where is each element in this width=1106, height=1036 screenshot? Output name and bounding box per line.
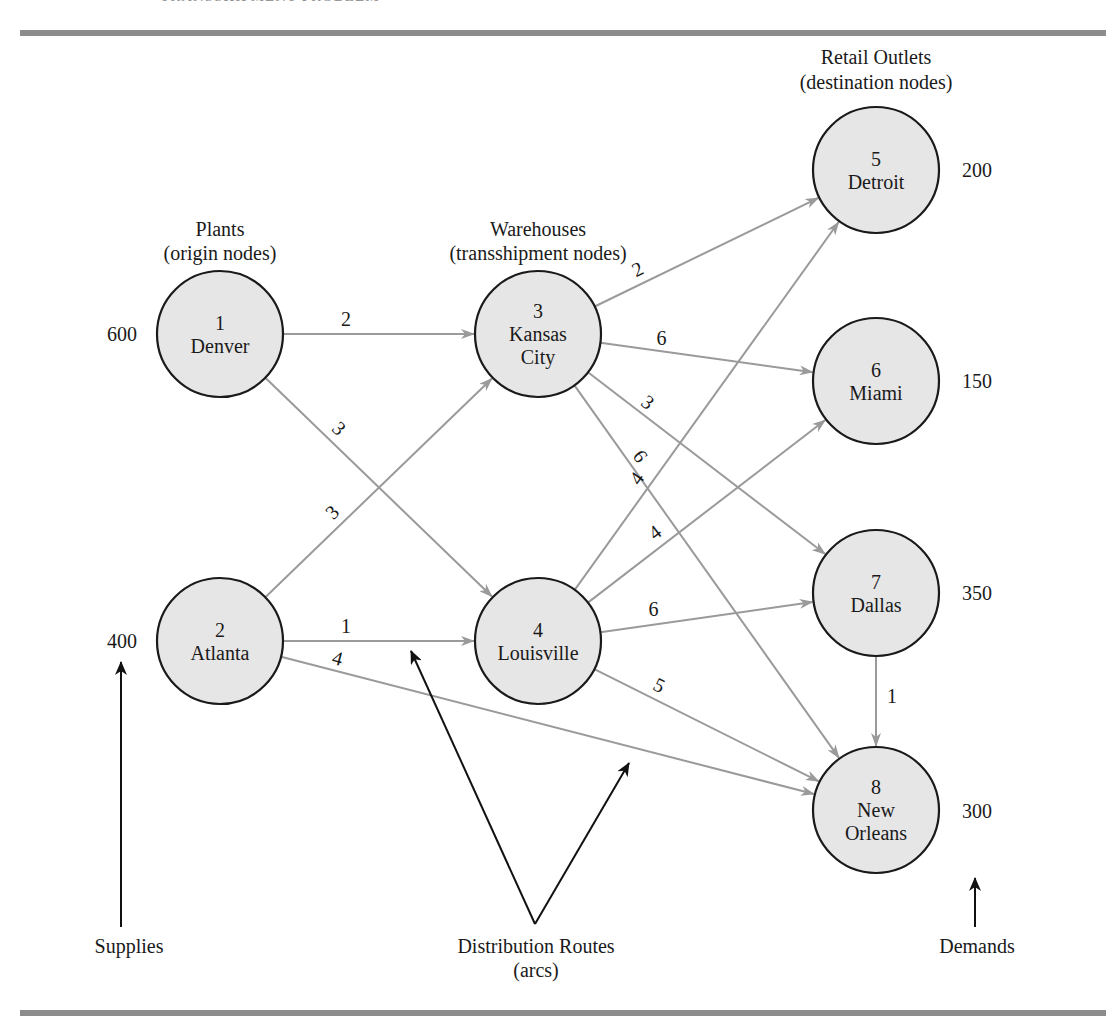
node-name: Kansas <box>509 323 567 345</box>
arc-cost-1-4: 3 <box>328 417 350 440</box>
arc-cost-3-7: 3 <box>637 390 658 414</box>
node-name: Louisville <box>497 642 578 664</box>
node-miami: 6Miami <box>813 318 939 444</box>
node-number: 2 <box>215 619 225 641</box>
arc-3-to-6 <box>600 343 812 373</box>
node-name: New <box>857 799 895 821</box>
transshipment-network-diagram: 23314263644651 1Denver2Atlanta3KansasCit… <box>0 0 1106 1036</box>
node-number: 7 <box>871 571 881 593</box>
arc-4-to-7 <box>600 602 812 632</box>
routes-sublabel: (arcs) <box>513 959 559 982</box>
node-name: City <box>521 346 555 369</box>
node-detroit: 5Detroit <box>813 107 939 233</box>
demand-dallas: 350 <box>962 582 992 604</box>
routes-label: Distribution Routes <box>457 935 614 957</box>
node-number: 3 <box>533 300 543 322</box>
node-dallas: 7Dallas <box>813 530 939 656</box>
arc-3-to-7 <box>588 372 825 554</box>
arc-cost-2-4: 1 <box>341 615 351 637</box>
node-number: 4 <box>533 619 543 641</box>
node-name: Denver <box>191 335 250 357</box>
node-number: 1 <box>215 312 225 334</box>
arc-cost-2-8: 4 <box>330 646 345 670</box>
demand-new-orleans: 300 <box>962 800 992 822</box>
arc-cost-3-8: 6 <box>629 446 653 467</box>
node-name: Miami <box>849 382 903 404</box>
arc-cost-7-8: 1 <box>887 685 897 707</box>
node-denver: 1Denver <box>157 271 283 397</box>
node-name: Orleans <box>845 822 907 844</box>
node-name: Dallas <box>850 594 901 616</box>
node-atlanta: 2Atlanta <box>157 578 283 704</box>
supply-atlanta: 400 <box>107 630 137 652</box>
arc-cost-1-3: 2 <box>341 308 351 330</box>
arc-cost-4-6: 4 <box>644 521 665 545</box>
retail-label: Retail Outlets <box>821 46 932 68</box>
node-number: 8 <box>871 776 881 798</box>
arc-3-to-5 <box>595 198 819 307</box>
arc-cost-3-5: 2 <box>628 257 647 281</box>
arc-cost-3-6: 6 <box>656 327 666 349</box>
supplies-label: Supplies <box>95 935 164 958</box>
demands-label: Demands <box>939 935 1015 957</box>
node-number: 6 <box>871 359 881 381</box>
demand-detroit: 200 <box>962 159 992 181</box>
node-number: 5 <box>871 148 881 170</box>
plants-sublabel: (origin nodes) <box>164 242 277 265</box>
node-name: Atlanta <box>191 642 250 664</box>
arc-4-to-6 <box>588 420 825 603</box>
node-kansas-city: 3KansasCity <box>475 271 601 397</box>
supply-denver: 600 <box>107 323 137 345</box>
arc-cost-4-8: 5 <box>650 673 669 697</box>
routes-arrow-right <box>535 763 629 924</box>
node-louisville: 4Louisville <box>475 578 601 704</box>
arc-cost-2-3: 3 <box>321 501 343 524</box>
warehouses-sublabel: (transshipment nodes) <box>449 242 626 265</box>
warehouses-label: Warehouses <box>490 218 586 240</box>
demand-miami: 150 <box>962 370 992 392</box>
plants-label: Plants <box>196 218 245 240</box>
node-new-orleans: 8NewOrleans <box>813 747 939 873</box>
arc-cost-4-7: 6 <box>649 598 659 620</box>
node-name: Detroit <box>848 171 905 193</box>
retail-sublabel: (destination nodes) <box>800 71 953 94</box>
